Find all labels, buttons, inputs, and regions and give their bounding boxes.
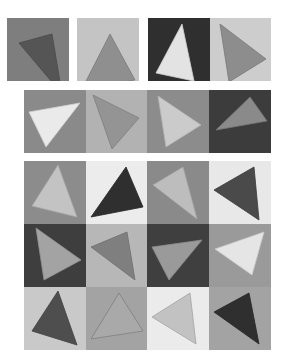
triangle-icon [210, 18, 271, 81]
triangle-icon [209, 224, 271, 287]
triangle-tile [86, 224, 147, 287]
triangle-tile [24, 161, 86, 224]
triangle-tile [148, 18, 210, 81]
triangle-icon [147, 90, 209, 153]
triangle-tile [209, 90, 271, 153]
triangle-tile [77, 18, 139, 81]
triangle-icon [86, 161, 147, 224]
triangle-tile [209, 287, 271, 350]
triangle-icon [147, 287, 209, 350]
triangle-icon [86, 90, 147, 153]
triangle-icon [147, 224, 209, 287]
triangle-tile [24, 224, 86, 287]
triangle-tile [209, 161, 271, 224]
triangle-icon [147, 161, 209, 224]
triangle-icon [24, 224, 86, 287]
triangle-icon [24, 161, 86, 224]
triangle-icon [209, 161, 271, 224]
triangle-tile [147, 90, 209, 153]
triangle-icon [7, 18, 69, 81]
triangle-tile [209, 224, 271, 287]
triangle-icon [209, 287, 271, 350]
triangle-icon [24, 90, 86, 153]
triangle-tile [86, 287, 147, 350]
triangle-tile [210, 18, 271, 81]
triangle-tile [86, 90, 147, 153]
triangle-icon [209, 90, 271, 153]
triangle-tile [147, 287, 209, 350]
triangle-icon [24, 287, 86, 350]
triangle-icon [148, 18, 210, 81]
triangle-tile [24, 287, 86, 350]
triangle-tile [147, 161, 209, 224]
triangle-tile [147, 224, 209, 287]
triangle-tile [86, 161, 147, 224]
triangle-tile [7, 18, 69, 81]
triangle-icon [86, 224, 147, 287]
triangle-icon [77, 18, 139, 81]
triangle-icon [86, 287, 147, 350]
triangle-tile [24, 90, 86, 153]
